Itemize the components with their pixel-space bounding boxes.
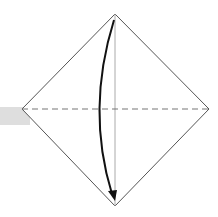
origami-diagram	[0, 0, 218, 217]
